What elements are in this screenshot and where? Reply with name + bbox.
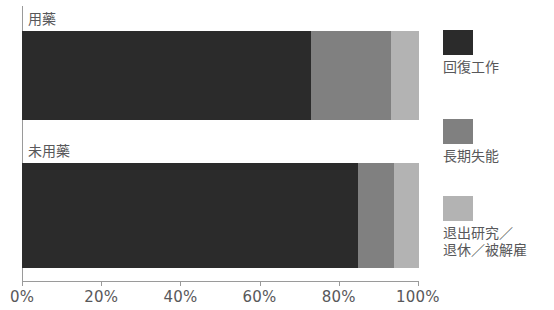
bar-segment (358, 163, 394, 268)
category-label-用藥: 用藥 (28, 8, 56, 28)
x-axis-tick (22, 281, 23, 286)
x-axis-tick-label: 60% (243, 288, 277, 306)
bar-segment (391, 31, 419, 120)
legend-label: 回復工作 (443, 59, 554, 76)
legend-item-退出研究-退休-被解雇: 退出研究／ 退休／被解雇 (443, 196, 554, 259)
legend-item-回復工作: 回復工作 (443, 30, 554, 76)
category-label-未用藥: 未用藥 (28, 140, 70, 160)
x-axis-tick (339, 281, 340, 286)
stacked-bar-未用藥 (22, 163, 419, 268)
chart-plot-area: 0%20%40%60%80%100% 用藥 未用藥 (0, 0, 440, 310)
stacked-bar-用藥 (22, 31, 419, 120)
legend-item-長期失能: 長期失能 (443, 119, 554, 165)
x-axis-line (22, 281, 419, 282)
legend-swatch-icon (443, 196, 473, 221)
x-axis-tick (101, 281, 102, 286)
bar-segment (311, 31, 391, 120)
legend-label: 長期失能 (443, 148, 554, 165)
x-axis-tick-label: 40% (163, 288, 197, 306)
legend-swatch-icon (443, 30, 473, 55)
bar-segment (22, 31, 311, 120)
x-axis-tick-label: 80% (322, 288, 356, 306)
x-axis-tick-label: 100% (396, 288, 440, 306)
x-axis-tick (180, 281, 181, 286)
legend-swatch-icon (443, 119, 473, 144)
x-axis-tick-label: 20% (84, 288, 118, 306)
bar-segment (394, 163, 419, 268)
x-axis-tick-label: 0% (10, 288, 34, 306)
legend-label: 退出研究／ 退休／被解雇 (443, 225, 554, 259)
bar-segment (22, 163, 358, 268)
x-axis-tick (260, 281, 261, 286)
chart-legend: 回復工作 長期失能 退出研究／ 退休／被解雇 (443, 0, 554, 310)
x-axis-tick (418, 281, 419, 286)
